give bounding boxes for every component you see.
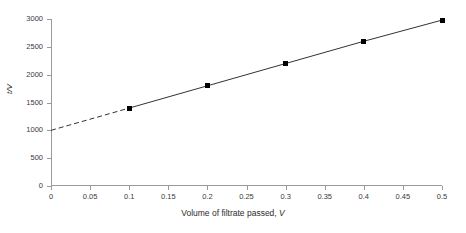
x-tick-label: 0.15 — [148, 193, 188, 201]
x-tick-label: 0.05 — [70, 193, 110, 201]
series-lines — [51, 19, 442, 186]
x-tick-label: 0.25 — [227, 193, 267, 201]
x-tick-mark — [325, 186, 326, 190]
data-point-marker — [127, 106, 132, 111]
x-tick-mark — [286, 186, 287, 190]
y-tick-label: 0 — [39, 182, 43, 190]
x-axis-title-text: Volume of filtrate passed, — [181, 208, 276, 218]
plot-area: 050010001500200025003000 00.050.10.150.2… — [51, 19, 442, 186]
x-axis-title-variable: V — [279, 208, 285, 218]
y-axis-title: t/V — [6, 64, 14, 94]
data-point-marker — [283, 61, 288, 66]
x-tick-mark — [207, 186, 208, 190]
x-tick-mark — [129, 186, 130, 190]
data-point-marker — [361, 39, 366, 44]
data-point-marker — [205, 83, 210, 88]
x-tick-mark — [442, 186, 443, 190]
x-tick-label: 0 — [31, 193, 71, 201]
y-tick-label: 1000 — [26, 126, 43, 134]
x-tick-mark — [90, 186, 91, 190]
y-tick-label: 2000 — [26, 71, 43, 79]
y-tick-label: 3000 — [26, 15, 43, 23]
x-tick-mark — [168, 186, 169, 190]
x-tick-label: 0.4 — [344, 193, 384, 201]
extrapolation-dashed-line — [51, 108, 129, 130]
x-tick-label: 0.5 — [422, 193, 462, 201]
x-tick-label: 0.35 — [305, 193, 345, 201]
x-tick-label: 0.1 — [109, 193, 149, 201]
x-tick-label: 0.3 — [266, 193, 306, 201]
y-tick-label: 2500 — [26, 43, 43, 51]
x-tick-label: 0.2 — [187, 193, 227, 201]
x-tick-mark — [247, 186, 248, 190]
y-tick-label: 1500 — [26, 99, 43, 107]
x-tick-label: 0.45 — [383, 193, 423, 201]
chart-screenshot: t/V 050010001500200025003000 00.050.10.1… — [0, 0, 466, 233]
x-tick-mark — [364, 186, 365, 190]
y-tick-label: 500 — [30, 154, 43, 162]
data-point-marker — [440, 18, 445, 23]
x-axis-title: Volume of filtrate passed, V — [0, 209, 466, 218]
x-tick-mark — [51, 186, 52, 190]
x-tick-mark — [403, 186, 404, 190]
